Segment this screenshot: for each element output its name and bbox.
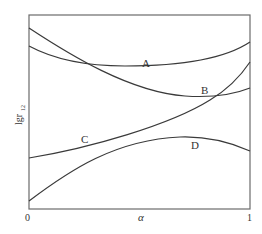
y-axis-label-main: lgr — [13, 113, 24, 125]
curve-b — [29, 28, 250, 97]
plot-frame — [29, 15, 250, 209]
curve-label-d: D — [191, 139, 199, 151]
chart: A B C D 0 1 α lgr 12 — [0, 0, 262, 234]
x-tick-1: 1 — [247, 212, 252, 223]
y-axis-label: lgr 12 — [13, 105, 26, 125]
curve-c — [29, 62, 250, 158]
curve-label-c: C — [81, 133, 88, 145]
curve-label-a: A — [142, 57, 150, 69]
x-tick-0: 0 — [25, 212, 30, 223]
x-axis-label: α — [138, 211, 144, 223]
curve-d — [29, 137, 250, 201]
curve-a — [29, 42, 250, 66]
curve-label-b: B — [201, 84, 208, 96]
y-axis-label-sub: 12 — [20, 105, 26, 111]
